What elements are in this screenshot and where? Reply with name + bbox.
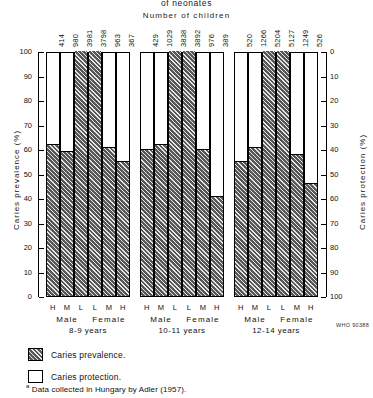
bar[interactable] [88, 52, 102, 297]
right-tick-label: 100 [330, 293, 356, 301]
bar[interactable] [290, 52, 304, 297]
bar[interactable] [74, 52, 88, 297]
fluoride-level-label: H [304, 303, 318, 312]
number-of-children-label: 5204 [273, 30, 282, 48]
bar-prevalence-fill [155, 144, 167, 296]
fluoride-level-label: M [102, 303, 116, 312]
sex-label: Female [182, 315, 224, 324]
right-tick [321, 101, 326, 102]
fluoride-level-label: M [196, 303, 210, 312]
number-of-children-label: 976 [207, 34, 216, 47]
bar[interactable] [248, 52, 262, 297]
bar-prevalence-fill [141, 149, 153, 296]
left-tick [39, 150, 44, 151]
right-tick [321, 248, 326, 249]
number-of-children-label: 1266 [259, 30, 268, 48]
left-tick-label: 70 [6, 122, 32, 130]
number-of-children-label: 414 [57, 34, 66, 47]
footnote: a Data collected in Hungary by Adler (19… [26, 383, 186, 394]
left-tick [39, 199, 44, 200]
bar-group [46, 52, 130, 297]
fluoride-level-label: H [140, 303, 154, 312]
bar[interactable] [46, 52, 60, 297]
legend-item: Caries protection. [28, 370, 348, 383]
bar[interactable] [262, 52, 276, 297]
right-tick-label: 40 [330, 146, 356, 154]
sex-label: Female [276, 315, 318, 324]
bar-prevalence-fill [75, 51, 87, 296]
number-of-children-label: 3798 [99, 30, 108, 48]
bar[interactable] [234, 52, 248, 297]
left-tick-label: 100 [6, 48, 32, 56]
sex-label: Male [46, 315, 88, 324]
sex-label: Male [140, 315, 182, 324]
right-tick [321, 273, 326, 274]
bar[interactable] [60, 52, 74, 297]
sex-label: Male [234, 315, 276, 324]
right-tick-label: 70 [330, 220, 356, 228]
bar-group [234, 52, 318, 297]
legend-label: Caries protection. [51, 372, 121, 382]
legend-swatch-hatch [28, 348, 43, 361]
left-tick [39, 101, 44, 102]
bar[interactable] [276, 52, 290, 297]
right-tick [321, 126, 326, 127]
number-of-children-label: 367 [127, 34, 136, 47]
number-of-children-label: 520 [245, 34, 254, 47]
left-tick [39, 248, 44, 249]
left-tick [39, 175, 44, 176]
plot-area [46, 52, 318, 297]
fluoride-level-label: H [116, 303, 130, 312]
bar-prevalence-fill [211, 196, 223, 296]
fluoride-level-label: M [290, 303, 304, 312]
number-of-children-label: 526 [315, 34, 324, 47]
left-tick-label: 80 [6, 97, 32, 105]
left-axis-title: Caries prevalence (%) [12, 130, 21, 230]
left-tick-label: 40 [6, 195, 32, 203]
number-of-children-label: 3838 [179, 30, 188, 48]
bar[interactable] [182, 52, 196, 297]
number-of-children-label: 3892 [193, 30, 202, 48]
legend-swatch-plain [28, 370, 43, 383]
legend-label: Caries prevalence. [51, 350, 125, 360]
chart-top-title: of neonates [0, 0, 373, 8]
bar[interactable] [154, 52, 168, 297]
right-tick-label: 20 [330, 97, 356, 105]
bar-prevalence-fill [89, 51, 101, 296]
fluoride-level-label: L [276, 303, 290, 312]
right-axis-title: Caries protection (%) [358, 134, 367, 230]
number-of-children-label: 1029 [165, 30, 174, 48]
left-tick-label: 0 [6, 293, 32, 301]
sex-label: Female [88, 315, 130, 324]
number-of-children-label: 3981 [85, 30, 94, 48]
bar[interactable] [140, 52, 154, 297]
bar[interactable] [116, 52, 130, 297]
bar[interactable] [210, 52, 224, 297]
left-tick [39, 297, 44, 298]
number-of-children-label: 1249 [301, 30, 310, 48]
bar-prevalence-fill [291, 154, 303, 296]
fluoride-level-label: L [168, 303, 182, 312]
left-tick-label: 50 [6, 171, 32, 179]
bar-prevalence-fill [305, 183, 317, 296]
right-tick [321, 199, 326, 200]
right-tick-label: 60 [330, 195, 356, 203]
right-tick-label: 30 [330, 122, 356, 130]
number-of-children-label: 980 [71, 34, 80, 47]
chart-subtitle: Number of children [0, 11, 373, 20]
fluoride-level-label: L [182, 303, 196, 312]
left-tick-label: 10 [6, 269, 32, 277]
fluoride-level-label: L [74, 303, 88, 312]
bar-prevalence-fill [103, 147, 115, 296]
bar-prevalence-fill [277, 51, 289, 296]
bar[interactable] [196, 52, 210, 297]
bar[interactable] [304, 52, 318, 297]
number-of-children-label: 429 [151, 34, 160, 47]
bar[interactable] [102, 52, 116, 297]
fluoride-level-label: M [154, 303, 168, 312]
right-tick-label: 50 [330, 171, 356, 179]
right-tick-label: 0 [330, 48, 356, 56]
bar-prevalence-fill [117, 161, 129, 296]
bar[interactable] [168, 52, 182, 297]
bar-group [140, 52, 224, 297]
